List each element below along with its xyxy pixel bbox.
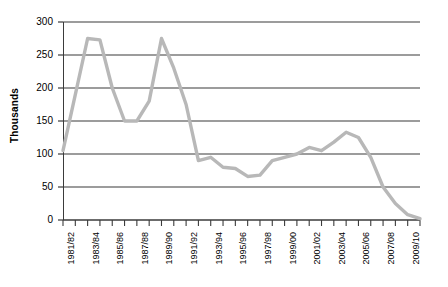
y-axis-title-label: Thousands: [10, 87, 21, 142]
x-tick-label: 1985/86: [116, 232, 125, 265]
y-tick-label: 50: [42, 182, 53, 192]
gridlines: [63, 22, 420, 220]
x-tick-label: 1989/90: [165, 232, 174, 265]
data-series-line: [63, 39, 420, 219]
x-tick-label: 1987/88: [141, 232, 150, 265]
y-axis-ticks: [58, 22, 63, 220]
x-tick-label: 2005/06: [362, 232, 371, 265]
x-tick-label: 1991/92: [190, 232, 199, 265]
x-tick-label: 1983/84: [92, 232, 101, 265]
y-tick-label: 0: [47, 215, 53, 225]
y-tick-label: 250: [36, 50, 53, 60]
y-tick-label: 200: [36, 83, 53, 93]
x-tick-label: 2001/02: [313, 232, 322, 265]
x-tick-label: 1999/00: [289, 232, 298, 265]
x-tick-label: 2007/08: [387, 232, 396, 265]
y-tick-label: 100: [36, 149, 53, 159]
y-tick-label: 300: [36, 17, 53, 27]
x-tick-label: 1995/96: [239, 232, 248, 265]
x-axis-ticks: [63, 220, 420, 226]
x-axis-tick-labels: 1981/821983/841985/861987/881989/901991/…: [63, 232, 420, 287]
x-tick-label: 2003/04: [338, 232, 347, 265]
x-tick-label: 1997/98: [264, 232, 273, 265]
y-tick-label: 150: [36, 116, 53, 126]
y-axis-tick-labels: 050100150200250300: [26, 0, 58, 230]
x-tick-label: 1993/94: [215, 232, 224, 265]
chart-container: Thousands 050100150200250300 1981/821983…: [0, 0, 448, 287]
x-tick-label: 1981/82: [67, 232, 76, 265]
chart-plot-svg: [63, 22, 420, 220]
x-tick-label: 2009/10: [412, 232, 421, 265]
